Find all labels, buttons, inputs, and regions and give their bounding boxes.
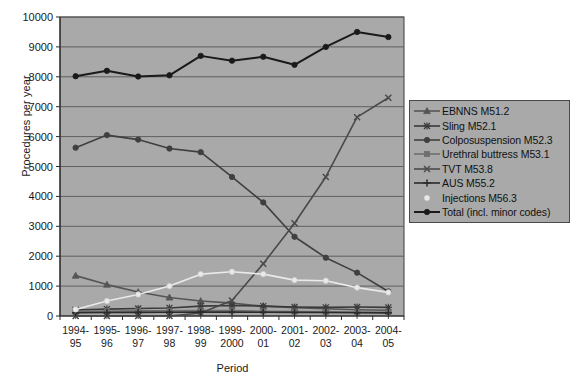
legend-label: Injections M56.3 — [442, 192, 517, 204]
data-point — [229, 269, 234, 274]
data-point — [198, 271, 203, 276]
data-point — [229, 174, 234, 179]
data-point — [167, 73, 172, 78]
legend-marker-icon — [412, 119, 442, 133]
data-point — [354, 285, 359, 290]
chart-legend: EBNNS M51.2Sling M52.1Colposuspension M5… — [409, 100, 570, 223]
data-point — [73, 145, 78, 150]
legend-marker-icon — [412, 162, 442, 176]
legend-label: Urethral buttress M53.1 — [442, 148, 549, 160]
data-point — [73, 307, 78, 312]
legend-item[interactable]: Injections M56.3 — [412, 190, 567, 204]
legend-marker-icon — [412, 147, 442, 161]
legend-marker-icon — [412, 104, 442, 118]
data-point — [73, 74, 78, 79]
data-point — [292, 62, 297, 67]
legend-label: EBNNS M51.2 — [442, 105, 509, 117]
data-point — [261, 271, 266, 276]
data-point — [354, 270, 359, 275]
data-point — [292, 234, 297, 239]
data-point — [135, 137, 140, 142]
legend-label: Sling M52.1 — [442, 120, 496, 132]
data-point — [261, 200, 266, 205]
legend-item[interactable]: Colposuspension M52.3 — [412, 133, 567, 147]
data-point — [323, 44, 328, 49]
data-point — [354, 29, 359, 34]
legend-item[interactable]: Sling M52.1 — [412, 118, 567, 132]
legend-item[interactable]: Urethral buttress M53.1 — [412, 147, 567, 161]
legend-label: Colposuspension M52.3 — [442, 134, 553, 146]
data-point — [386, 290, 391, 295]
legend-marker-icon — [412, 176, 442, 190]
data-point — [323, 255, 328, 260]
data-point — [323, 278, 328, 283]
legend-item[interactable]: EBNNS M51.2 — [412, 104, 567, 118]
legend-label: Total (incl. minor codes) — [442, 206, 550, 218]
data-point — [135, 292, 140, 297]
data-point — [292, 277, 297, 282]
legend-label: TVT M53.8 — [442, 163, 493, 175]
data-point — [386, 34, 391, 39]
legend-item[interactable]: Total (incl. minor codes) — [412, 205, 567, 219]
data-point — [104, 68, 109, 73]
data-point — [261, 54, 266, 59]
chart-figure: Procedures per year Period 0100020003000… — [0, 0, 574, 389]
legend-label: AUS M55.2 — [442, 177, 495, 189]
data-point — [135, 74, 140, 79]
legend-marker-icon — [412, 133, 442, 147]
data-point — [167, 146, 172, 151]
legend-marker-icon — [412, 191, 442, 205]
data-point — [104, 298, 109, 303]
data-point — [229, 58, 234, 63]
data-point — [198, 53, 203, 58]
legend-item[interactable]: AUS M55.2 — [412, 176, 567, 190]
legend-item[interactable]: TVT M53.8 — [412, 162, 567, 176]
data-point — [104, 132, 109, 137]
legend-marker-icon — [412, 205, 442, 219]
data-point — [198, 149, 203, 154]
data-point — [167, 283, 172, 288]
